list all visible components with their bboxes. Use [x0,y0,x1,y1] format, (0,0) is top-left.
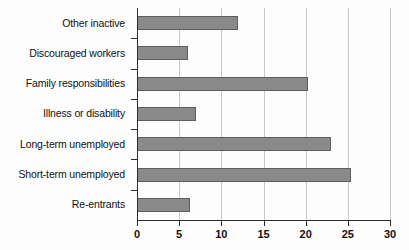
bars-layer [137,8,390,220]
bar [137,168,351,182]
y-axis-tick [131,99,137,100]
x-axis-ticks [137,221,391,226]
x-axis-tick-labels: 051015202530 [137,228,391,244]
bar-row [137,107,390,121]
y-axis-tick [131,190,137,191]
bar-row [137,46,390,60]
bar [137,107,196,121]
category-label: Long-term unemployed [0,139,131,150]
bar-row [137,77,390,91]
y-axis-tick [131,129,137,130]
category-label: Short-term unemployed [0,169,131,180]
category-label: Illness or disability [0,108,131,119]
bar [137,77,308,91]
y-axis-tick [131,38,137,39]
x-axis-tick-label: 0 [134,228,140,241]
plot-area [137,8,390,220]
y-axis-line [137,8,138,221]
category-axis: Other inactiveDiscouraged workersFamily … [0,8,131,220]
y-axis-tick [131,69,137,70]
bar-row [137,198,390,212]
x-axis-tick [179,221,180,226]
x-axis-tick-label: 20 [300,228,312,241]
x-axis-tick [306,221,307,226]
bar-row [137,137,390,151]
x-axis-tick-label: 30 [384,228,396,241]
y-axis-ticks [131,8,137,220]
x-axis-tick-label: 25 [342,228,354,241]
x-axis-tick [390,221,391,226]
bar [137,46,188,60]
gridline [390,8,391,220]
x-axis-tick [264,221,265,226]
category-label: Family responsibilities [0,78,131,89]
x-axis-tick-label: 10 [215,228,227,241]
bar [137,137,331,151]
category-label: Re-entrants [0,199,131,210]
bar-row [137,168,390,182]
x-axis-tick [137,221,138,226]
bar [137,198,190,212]
category-label: Discouraged workers [0,48,131,59]
x-axis-tick [221,221,222,226]
bar-chart: Other inactiveDiscouraged workersFamily … [0,0,409,250]
y-axis-tick [131,159,137,160]
x-axis-tick-label: 5 [176,228,182,241]
x-axis-tick-label: 15 [257,228,269,241]
x-axis-tick [348,221,349,226]
bar-row [137,16,390,30]
bar [137,16,238,30]
category-label: Other inactive [0,18,131,29]
